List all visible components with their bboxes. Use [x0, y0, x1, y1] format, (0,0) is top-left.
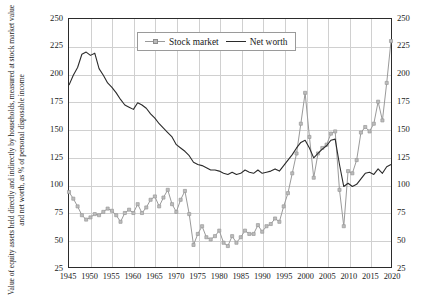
series-marker: [261, 230, 264, 233]
y-axis-tick-label-left: 225: [37, 41, 63, 50]
y-axis-tick-label-left: 50: [37, 236, 63, 245]
series-marker: [72, 197, 75, 200]
series-marker: [274, 217, 277, 220]
series-marker: [162, 196, 165, 199]
series-marker: [243, 229, 246, 232]
y-axis-tick-label-right: 100: [397, 180, 423, 189]
series-marker: [123, 211, 126, 214]
y-axis-tick-label-right: 200: [397, 69, 423, 78]
series-marker: [389, 40, 392, 43]
series-marker: [115, 214, 118, 217]
y-axis-tick-label-left: 125: [37, 153, 63, 162]
y-axis-tick-label-left: 200: [37, 69, 63, 78]
series-marker: [110, 209, 113, 212]
series-marker: [166, 188, 169, 191]
legend-marker-net-worth: [226, 38, 246, 46]
series-marker: [183, 189, 186, 192]
series-marker: [106, 207, 109, 210]
series-marker: [188, 213, 191, 216]
y-axis-tick-label-right: 50: [397, 236, 423, 245]
legend-label-stock-market: Stock market: [169, 37, 219, 47]
series-marker: [175, 210, 178, 213]
series-marker: [119, 220, 122, 223]
y-axis-tick-label-right: 75: [397, 208, 423, 217]
series-marker: [201, 225, 204, 228]
series-marker: [312, 176, 315, 179]
y-axis-tick-label-left: 150: [37, 125, 63, 134]
series-marker: [213, 235, 216, 238]
series-marker: [136, 203, 139, 206]
series-marker: [170, 203, 173, 206]
series-marker: [85, 218, 88, 221]
series-marker: [351, 172, 354, 175]
y-axis-tick-label-left: 250: [37, 14, 63, 23]
y-axis-label: Value of equity assets held directly and…: [0, 0, 34, 300]
data-series-layer: [69, 19, 391, 267]
series-marker: [128, 208, 131, 211]
series-marker: [231, 235, 234, 238]
series-marker: [132, 211, 135, 214]
series-marker: [256, 224, 259, 227]
series-marker: [239, 236, 242, 239]
y-axis-tick-label-right: 250: [397, 14, 423, 23]
series-marker: [252, 232, 255, 235]
series-marker: [355, 159, 358, 162]
y-axis-tick-label-right: 125: [397, 153, 423, 162]
legend-marker-stock-market: [145, 38, 165, 46]
series-marker: [338, 188, 341, 191]
y-axis-tick-label-left: 25: [37, 264, 63, 273]
series-marker: [153, 195, 156, 198]
series-marker: [67, 191, 70, 194]
series-line-net-worth: [69, 52, 391, 186]
y-axis-tick-label-left: 175: [37, 97, 63, 106]
legend-item-net-worth: Net worth: [226, 37, 288, 47]
y-axis-tick-label-right: 225: [397, 41, 423, 50]
y-axis-tick-label-right: 175: [397, 97, 423, 106]
series-marker: [364, 125, 367, 128]
y-axis-tick-label-right: 25: [397, 264, 423, 273]
series-marker: [286, 192, 289, 195]
plot-area: [68, 18, 392, 268]
series-marker: [299, 122, 302, 125]
series-marker: [342, 225, 345, 228]
series-marker: [149, 198, 152, 201]
series-marker: [334, 130, 337, 133]
series-marker: [145, 206, 148, 209]
series-marker: [282, 205, 285, 208]
series-marker: [304, 91, 307, 94]
series-marker: [295, 152, 298, 155]
series-marker: [381, 119, 384, 122]
chart-legend: Stock market Net worth: [137, 32, 296, 51]
series-marker: [248, 232, 251, 235]
series-marker: [179, 198, 182, 201]
series-marker: [209, 238, 212, 241]
series-marker: [347, 170, 350, 173]
y-axis-tick-label-left: 75: [37, 208, 63, 217]
series-marker: [385, 81, 388, 84]
series-marker: [218, 229, 221, 232]
legend-item-stock-market: Stock market: [145, 37, 219, 47]
series-marker: [368, 130, 371, 133]
series-marker: [226, 245, 229, 248]
legend-label-net-worth: Net worth: [250, 37, 288, 47]
series-marker: [89, 216, 92, 219]
series-marker: [140, 211, 143, 214]
series-marker: [205, 236, 208, 239]
series-marker: [196, 232, 199, 235]
series-marker: [372, 122, 375, 125]
series-marker: [377, 100, 380, 103]
chart-figure: Value of equity assets held directly and…: [0, 0, 430, 300]
series-marker: [222, 241, 225, 244]
series-marker: [76, 205, 79, 208]
y-axis-tick-label-left: 100: [37, 180, 63, 189]
series-marker: [265, 225, 268, 228]
series-marker: [158, 205, 161, 208]
series-marker: [235, 241, 238, 244]
series-marker: [291, 172, 294, 175]
series-marker: [278, 220, 281, 223]
series-marker: [308, 135, 311, 138]
series-marker: [192, 243, 195, 246]
series-marker: [102, 210, 105, 213]
x-axis-tick-label: 2020: [379, 273, 405, 281]
series-marker: [329, 132, 332, 135]
